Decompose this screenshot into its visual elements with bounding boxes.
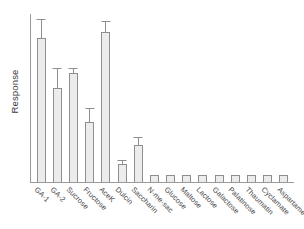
tick-slot: Galactose xyxy=(211,183,227,229)
bar[interactable] xyxy=(53,88,62,182)
tick-slot: Lactose xyxy=(195,183,211,229)
bar-slot xyxy=(260,14,276,182)
bar-slot xyxy=(65,14,81,182)
tick-slot: Palatinose xyxy=(227,183,243,229)
tick-slot: GA-2 xyxy=(49,183,65,229)
bar-slot xyxy=(114,14,130,182)
error-bar-cap xyxy=(101,21,110,22)
tick-slot: Glucose xyxy=(163,183,179,229)
bar[interactable] xyxy=(150,175,159,182)
bar[interactable] xyxy=(247,175,256,182)
bar-slot xyxy=(227,14,243,182)
x-tick-label: Aspartame xyxy=(276,185,304,217)
tick-slot: AceK xyxy=(98,183,114,229)
tick-slot: Dulcin xyxy=(114,183,130,229)
error-bar-stem xyxy=(41,19,42,37)
bar[interactable] xyxy=(85,122,94,182)
y-axis-label: Response xyxy=(10,69,21,113)
bar-slot xyxy=(146,14,162,182)
error-bar xyxy=(101,21,110,33)
bar[interactable] xyxy=(182,175,191,182)
tick-slot: Cyclamate xyxy=(260,183,276,229)
tick-slot: Saccharin xyxy=(130,183,146,229)
error-bar xyxy=(85,108,94,121)
error-bar-cap xyxy=(134,137,143,138)
error-bar-cap xyxy=(53,68,62,69)
bar[interactable] xyxy=(134,145,143,182)
bar-slot xyxy=(82,14,98,182)
error-bar-stem xyxy=(89,108,90,121)
bar-slot xyxy=(243,14,259,182)
error-bar xyxy=(53,68,62,88)
bar-slot xyxy=(130,14,146,182)
error-bar xyxy=(37,19,46,37)
error-bar-stem xyxy=(57,68,58,88)
bar[interactable] xyxy=(198,175,207,182)
error-bar-cap xyxy=(69,68,78,69)
tick-slot: Maltose xyxy=(179,183,195,229)
bar-slot xyxy=(179,14,195,182)
y-axis-label-container: Response xyxy=(4,0,26,182)
tick-slot: GA-1 xyxy=(33,183,49,229)
bar-slot xyxy=(195,14,211,182)
error-bar-cap xyxy=(37,19,46,20)
bar-slot xyxy=(33,14,49,182)
bar-slot xyxy=(49,14,65,182)
bar[interactable] xyxy=(263,175,272,182)
bar-slot xyxy=(276,14,292,182)
tick-slot: Fructose xyxy=(82,183,98,229)
x-axis-tick-labels: GA-1GA-2SucroseFructoseAceKDulcinSacchar… xyxy=(31,183,294,229)
tick-slot: Aspartame xyxy=(276,183,292,229)
error-bar-stem xyxy=(105,21,106,33)
bar[interactable] xyxy=(69,73,78,182)
error-bar xyxy=(118,160,127,163)
bar[interactable] xyxy=(231,175,240,182)
error-bar-cap xyxy=(85,108,94,109)
error-bar-cap xyxy=(118,160,127,161)
error-bar-stem xyxy=(138,137,139,145)
tick-slot: Sucrose xyxy=(65,183,81,229)
bar[interactable] xyxy=(118,164,127,182)
bar-chart-figure: Response GA-1GA-2SucroseFructoseAceKDulc… xyxy=(0,0,304,229)
bar[interactable] xyxy=(215,175,224,182)
bar-slot xyxy=(163,14,179,182)
tick-slot: N-me-sac xyxy=(146,183,162,229)
plot-area xyxy=(30,14,294,182)
bar[interactable] xyxy=(101,32,110,182)
bar[interactable] xyxy=(279,175,288,182)
bar-series xyxy=(31,14,294,182)
error-bar xyxy=(134,137,143,145)
error-bar xyxy=(69,68,78,73)
tick-slot: Thaumatin xyxy=(243,183,259,229)
bar-slot xyxy=(211,14,227,182)
bar[interactable] xyxy=(166,175,175,182)
bar-slot xyxy=(98,14,114,182)
bar[interactable] xyxy=(37,38,46,182)
